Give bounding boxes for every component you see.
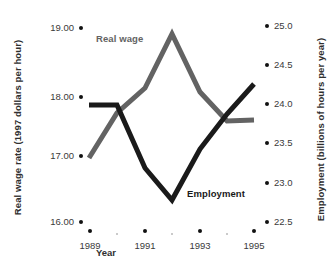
plot-area	[0, 0, 335, 268]
series-line-real-wage	[89, 34, 254, 158]
series-annotation-employment: Employment	[187, 188, 245, 199]
chart-container: Real wage rate (1997 dollars per hour) E…	[0, 0, 335, 268]
series-annotation-real-wage: Real wage	[96, 33, 143, 44]
series-line-employment	[89, 84, 254, 200]
